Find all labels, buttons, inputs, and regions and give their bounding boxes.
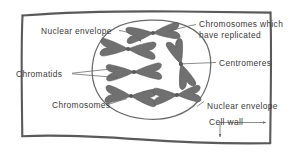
chromosome [166,38,197,90]
label-chromatids: Chromatids [16,69,62,79]
chromosome [106,63,162,81]
label-cell-wall: Cell wall [209,117,243,127]
label-chromosomes-replicated-line2: have replicated [199,30,261,40]
label-chromosomes: Chromosomes [52,100,110,110]
label-nuclear-envelope-bottom: Nuclear envelope [207,101,278,111]
chromosome [153,85,201,105]
label-nuclear-envelope-top: Nuclear envelope [41,26,112,36]
label-chromosomes-replicated-line1: Chromosomes which [199,19,283,29]
chromosome [105,85,158,107]
cell-division-diagram: Nuclear envelope Chromosomes which have … [0,0,305,157]
label-centromeres: Centromeres [219,58,271,68]
leader-nuclear-envelope-bottom [197,102,204,107]
chromosome-group [100,22,201,107]
chromosome [126,22,181,44]
